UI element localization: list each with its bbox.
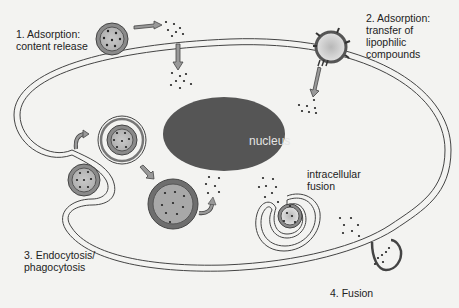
label-nucleus: nucleus (249, 134, 290, 148)
diagram-canvas: 1. Adsorption: content release 2. Adsorp… (0, 0, 459, 308)
liposome-lipophilic-transfer (313, 28, 350, 66)
arrow-curved-up (76, 130, 89, 149)
fusion-dots (339, 217, 360, 237)
label-intracellular-fusion: intracellular fusion (307, 168, 361, 192)
intracellular-dots (258, 177, 279, 203)
lipophilic-dots (298, 99, 317, 114)
label-adsorption-transfer-lipophilic: 2. Adsorption: transfer of lipophilic co… (366, 12, 430, 60)
fusing-vesicle (278, 204, 302, 228)
label-fusion: 4. Fusion (330, 287, 373, 299)
liposome-endocytosis-entering (68, 164, 100, 196)
arrow-lipophilic-down (310, 67, 321, 97)
arrow-curved-release (199, 197, 216, 213)
label-endocytosis-phagocytosis: 3. Endocytosis/ phagocytosis (24, 249, 95, 273)
released-dots-top (165, 21, 184, 37)
released-dots-inside-1 (170, 72, 192, 89)
endosome-vesicle (98, 116, 146, 164)
released-dots-endocytosis (205, 176, 220, 194)
lysosome-vesicle (148, 179, 198, 229)
liposome-adsorption-content (96, 23, 128, 55)
membrane-fusion-pocket (372, 240, 401, 270)
arrow-release-right (134, 21, 162, 29)
arrow-diagonal-down (140, 165, 154, 179)
label-adsorption-content-release: 1. Adsorption: content release (16, 28, 88, 52)
